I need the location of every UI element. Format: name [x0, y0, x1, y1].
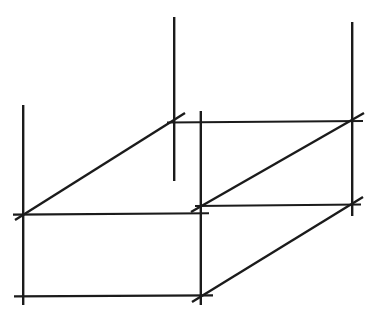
back-face-bottom-edge [195, 205, 361, 207]
front-face-top-edge [13, 213, 209, 214]
figure-background [0, 0, 374, 315]
figure-canvas [0, 0, 374, 315]
box-line-drawing [0, 0, 374, 315]
back-face-top-edge [167, 121, 363, 123]
front-face-bottom-edge [14, 295, 213, 296]
